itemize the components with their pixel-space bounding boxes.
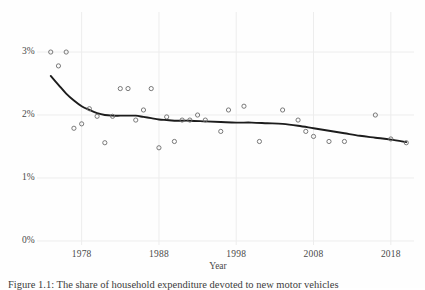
gridlines (37, 12, 414, 245)
x-axis-tick-label: 1978 (60, 249, 104, 259)
y-axis-tick-label: 2% (1, 109, 35, 119)
figure-caption: Figure 1.1: The share of household expen… (8, 279, 420, 290)
x-axis-title: Year (178, 261, 258, 271)
x-axis-tick-label: 1998 (214, 249, 258, 259)
trend-line (51, 76, 407, 142)
y-axis-tick-label: 0% (1, 235, 35, 245)
x-axis-tick-label: 2018 (369, 249, 413, 259)
x-axis-tick-label: 1988 (137, 249, 181, 259)
y-axis-tick-label: 1% (1, 172, 35, 182)
x-axis-tick-label: 2008 (292, 249, 336, 259)
y-axis-tick-label: 3% (1, 46, 35, 56)
